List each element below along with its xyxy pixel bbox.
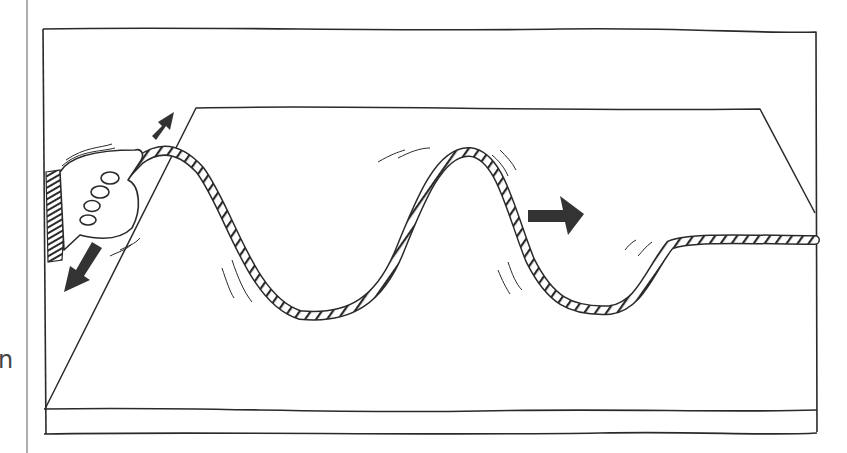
rope-wave-illustration	[0, 0, 847, 453]
up-motion-arrow	[152, 112, 174, 140]
frame	[43, 28, 817, 434]
down-motion-arrow	[64, 242, 102, 292]
wave-direction-arrow	[528, 196, 584, 235]
rope	[62, 151, 815, 316]
hand	[60, 150, 142, 250]
